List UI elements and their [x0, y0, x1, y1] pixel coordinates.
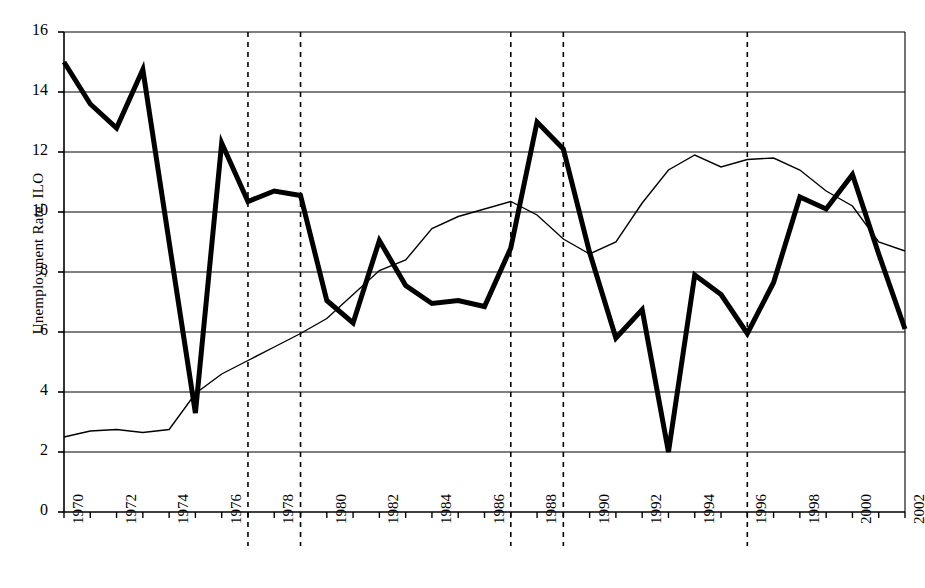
x-tick-label-2000: 2000 — [858, 494, 875, 524]
x-tick-label-2002: 2002 — [911, 494, 925, 524]
y-tick-label-10: 10 — [18, 201, 48, 219]
x-tick-label-1976: 1976 — [228, 494, 245, 524]
y-tick-label-14: 14 — [18, 81, 48, 99]
x-tick-label-1974: 1974 — [175, 494, 192, 524]
y-tick-label-16: 16 — [18, 21, 48, 39]
x-tick-label-1980: 1980 — [333, 494, 350, 524]
y-tick-label-0: 0 — [18, 501, 48, 519]
x-tick-label-1986: 1986 — [491, 494, 508, 524]
y-tick-label-6: 6 — [18, 321, 48, 339]
chart-container: Unemployment Rate, ILO 02468101214161970… — [0, 0, 925, 588]
x-tick-label-1972: 1972 — [123, 494, 140, 524]
y-tick-label-2: 2 — [18, 441, 48, 459]
x-tick-label-1978: 1978 — [280, 494, 297, 524]
x-tick-label-1984: 1984 — [438, 494, 455, 524]
x-tick-label-1990: 1990 — [596, 494, 613, 524]
x-tick-label-1992: 1992 — [648, 494, 665, 524]
x-tick-label-1970: 1970 — [70, 494, 87, 524]
x-tick-label-1994: 1994 — [701, 494, 718, 524]
x-tick-label-1996: 1996 — [753, 494, 770, 524]
y-tick-label-12: 12 — [18, 141, 48, 159]
y-tick-label-4: 4 — [18, 381, 48, 399]
x-tick-label-1982: 1982 — [385, 494, 402, 524]
x-tick-label-1988: 1988 — [543, 494, 560, 524]
x-tick-label-1998: 1998 — [806, 494, 823, 524]
y-tick-label-8: 8 — [18, 261, 48, 279]
series-line-bold-series — [64, 62, 905, 452]
